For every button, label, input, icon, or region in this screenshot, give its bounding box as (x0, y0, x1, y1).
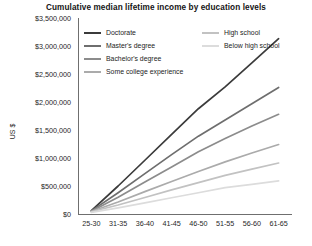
legend-swatch-icon (84, 58, 101, 60)
legend-item[interactable]: Some college experience (84, 66, 183, 78)
y-axis-tick-label: $2,500,000 (35, 70, 71, 79)
legend-label: Master's degree (106, 43, 155, 50)
legend-item[interactable]: High school (202, 27, 280, 39)
series-line (91, 87, 278, 210)
y-axis-tick-label: $3,500,000 (35, 14, 71, 23)
chart-container: Cumulative median lifetime income by edu… (0, 0, 312, 246)
legend-swatch-icon (84, 32, 101, 34)
x-axis-tick-label: 41-45 (162, 219, 180, 228)
legend-swatch-icon (202, 45, 219, 47)
y-axis-tick-label: $1,000,000 (35, 154, 71, 163)
x-axis-tick-label: 36-40 (136, 219, 154, 228)
series-line (91, 145, 278, 212)
x-axis-labels: 25-3031-3536-4041-4546-5051-5556-6061-65 (78, 219, 292, 233)
legend-swatch-icon (84, 45, 101, 47)
legend-label: Below high school (224, 43, 280, 50)
legend-column-right: High schoolBelow high school (202, 27, 280, 53)
legend-column-left: DoctorateMaster's degreeBachelor's degre… (84, 27, 183, 79)
series-line (91, 163, 278, 212)
x-axis-tick-label: 31-35 (109, 219, 127, 228)
x-axis-tick-label: 61-65 (269, 219, 287, 228)
y-axis-tick-label: $2,000,000 (35, 98, 71, 107)
legend-swatch-icon (84, 71, 101, 73)
y-axis-tick-label: $0 (63, 210, 71, 219)
y-axis-tick-label: $1,500,000 (35, 126, 71, 135)
y-axis-tick-label: $3,000,000 (35, 42, 71, 51)
legend-item[interactable]: Doctorate (84, 27, 183, 39)
x-axis-tick-label: 51-55 (216, 219, 234, 228)
legend-item[interactable]: Master's degree (84, 40, 183, 52)
legend-label: High school (224, 30, 260, 37)
x-axis-tick-label: 46-50 (189, 219, 207, 228)
x-axis-tick-label: 56-60 (243, 219, 261, 228)
series-line (91, 114, 278, 211)
y-axis-tick-label: $500,000 (41, 182, 71, 191)
legend-item[interactable]: Bachelor's degree (84, 53, 183, 65)
legend-swatch-icon (202, 32, 219, 34)
x-axis-tick-label: 25-30 (82, 219, 100, 228)
x-axis-line (78, 214, 292, 215)
legend-label: Doctorate (106, 30, 136, 37)
legend-label: Some college experience (106, 69, 183, 76)
legend-item[interactable]: Below high school (202, 40, 280, 52)
y-axis-labels: $0$500,000$1,000,000$1,500,000$2,000,000… (0, 0, 76, 246)
legend-label: Bachelor's degree (106, 56, 161, 63)
